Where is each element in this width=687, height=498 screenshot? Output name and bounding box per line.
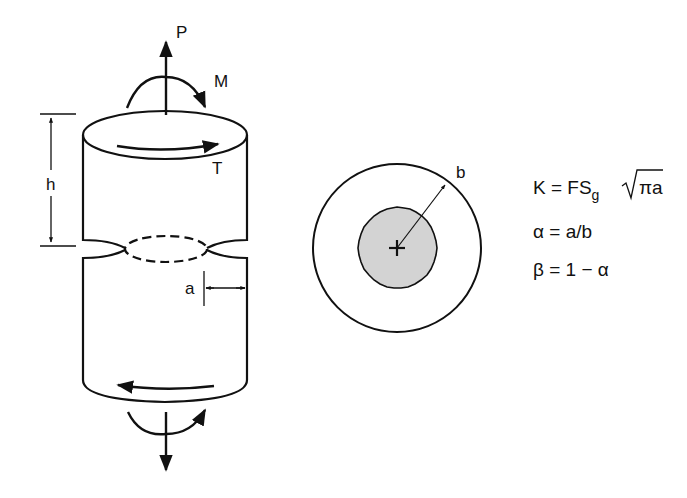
height-label: h (46, 175, 55, 194)
bending-moment-label: M (214, 72, 228, 91)
axial-load-label: P (176, 23, 187, 42)
radius-label: b (456, 163, 465, 182)
top-loads (117, 42, 218, 150)
equations: K = FSg πa α = a/b β = 1 − α (533, 170, 663, 280)
equation-k: K = FSg (533, 177, 599, 203)
equation-beta: β = 1 − α (533, 259, 609, 280)
lower-body (83, 250, 247, 402)
bottom-loads (118, 385, 214, 470)
torque-arrow-bottom (118, 385, 214, 389)
cylinder-specimen (83, 111, 247, 402)
torque-label: T (212, 159, 222, 178)
equation-k-sqrt-arg: πa (639, 177, 663, 198)
crack-depth-dimension (204, 271, 245, 306)
torque-arrow-top (117, 144, 218, 150)
top-face-ellipse (83, 111, 247, 159)
cross-section (313, 164, 481, 332)
diagram-canvas: P M T h a b K = FSg πa α = a/b (0, 0, 687, 498)
crack-depth-label: a (185, 279, 195, 298)
crack-ellipse-dashed (125, 236, 207, 262)
equation-alpha: α = a/b (533, 221, 592, 242)
